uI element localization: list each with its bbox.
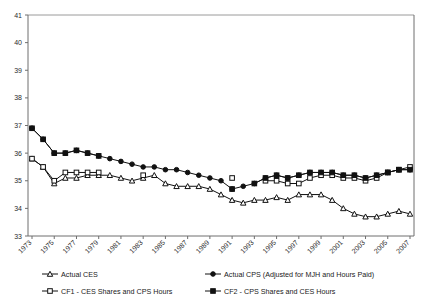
x-tick-label: 2001 — [328, 239, 344, 255]
data-point-marker — [63, 151, 68, 156]
legend-marker-open-triangle-icon — [47, 271, 52, 276]
data-point-marker — [218, 192, 223, 197]
data-point-marker — [230, 187, 235, 192]
data-point-marker — [363, 214, 368, 219]
legend-marker-filled-square-icon — [211, 289, 216, 294]
data-point-marker — [296, 192, 301, 197]
data-point-marker — [285, 181, 290, 186]
data-point-marker — [163, 167, 168, 172]
legend-label: Actual CES — [61, 270, 98, 279]
chart-legend: Actual CESActual CPS (Adjusted for MJH a… — [42, 270, 374, 296]
data-point-marker — [96, 154, 101, 159]
data-point-marker — [319, 170, 324, 175]
data-point-marker — [152, 165, 157, 170]
data-point-marker — [219, 178, 224, 183]
data-point-marker — [118, 175, 123, 180]
x-tick-label: 1987 — [172, 239, 188, 255]
plot-frame — [28, 15, 414, 236]
data-point-marker — [107, 173, 112, 178]
data-point-marker — [330, 170, 335, 175]
data-point-marker — [274, 173, 279, 178]
data-point-marker — [396, 208, 401, 213]
x-tick-label: 1997 — [284, 239, 300, 255]
data-point-marker — [41, 137, 46, 142]
series-line — [32, 159, 410, 217]
data-point-marker — [407, 211, 412, 216]
x-tick-label: 2005 — [373, 239, 389, 255]
y-tick-label: 36 — [14, 150, 22, 157]
data-point-marker — [241, 184, 246, 189]
data-point-marker — [63, 170, 68, 175]
data-point-marker — [63, 175, 68, 180]
x-tick-label: 1973 — [17, 239, 33, 255]
data-point-marker — [141, 173, 146, 178]
data-point-marker — [274, 178, 279, 183]
data-point-marker — [185, 184, 190, 189]
data-point-marker — [329, 197, 334, 202]
x-tick-label: 1989 — [195, 239, 211, 255]
series-2 — [30, 126, 413, 191]
x-tick-label: 1999 — [306, 239, 322, 255]
data-point-marker — [263, 176, 268, 181]
y-tick-label: 34 — [14, 205, 22, 212]
x-tick-label: 1977 — [61, 239, 77, 255]
x-tick-label: 1991 — [217, 239, 233, 255]
data-point-marker — [397, 167, 402, 172]
data-point-marker — [363, 176, 368, 181]
data-point-marker — [85, 170, 90, 175]
data-point-marker — [207, 186, 212, 191]
data-point-marker — [152, 173, 157, 178]
x-tick-label: 1995 — [261, 239, 277, 255]
x-tick-label: 1975 — [39, 239, 55, 255]
data-point-marker — [174, 184, 179, 189]
x-tick-label: 2007 — [395, 239, 411, 255]
data-point-marker — [318, 192, 323, 197]
data-point-marker — [252, 181, 257, 186]
y-tick-label: 41 — [14, 12, 22, 19]
x-tick-label: 1983 — [128, 239, 144, 255]
y-tick-label: 39 — [14, 67, 22, 74]
x-tick-label: 1979 — [83, 239, 99, 255]
series-1 — [29, 156, 412, 219]
data-point-marker — [241, 200, 246, 205]
x-tick-label: 1981 — [106, 239, 122, 255]
data-point-marker — [119, 159, 124, 164]
data-point-marker — [229, 197, 234, 202]
y-tick-label: 35 — [14, 177, 22, 184]
x-axis-ticks: 1973197519771979198119831985198719891991… — [17, 236, 411, 255]
data-point-marker — [52, 151, 57, 156]
data-point-marker — [41, 165, 46, 170]
legend-label: Actual CPS (Adjusted for MJH and Hours P… — [224, 270, 374, 279]
data-point-marker — [307, 192, 312, 197]
y-tick-label: 40 — [14, 39, 22, 46]
series-layer — [29, 126, 412, 219]
data-point-marker — [308, 170, 313, 175]
chart-container: 414039383736353433 197319751977197919811… — [0, 0, 426, 304]
data-point-marker — [230, 176, 235, 181]
legend-item-3[interactable]: CF1 - CES Shares and CPS Hours — [42, 287, 173, 296]
data-point-marker — [96, 170, 101, 175]
data-point-marker — [385, 170, 390, 175]
data-point-marker — [85, 151, 90, 156]
legend-marker-filled-circle-icon — [211, 272, 216, 277]
data-point-marker — [297, 181, 302, 186]
data-point-marker — [341, 173, 346, 178]
y-tick-label: 37 — [14, 122, 22, 129]
data-point-marker — [196, 184, 201, 189]
data-point-marker — [108, 156, 113, 161]
data-point-marker — [30, 156, 35, 161]
x-tick-label: 1985 — [150, 239, 166, 255]
data-point-marker — [130, 162, 135, 167]
legend-label: CF1 - CES Shares and CPS Hours — [61, 287, 173, 296]
legend-item-2[interactable]: Actual CPS (Adjusted for MJH and Hours P… — [205, 270, 374, 279]
data-point-marker — [74, 170, 79, 175]
legend-item-1[interactable]: Actual CES — [42, 270, 98, 279]
y-tick-label: 33 — [14, 233, 22, 240]
legend-item-4[interactable]: CF2 - CPS Shares and CES Hours — [205, 287, 336, 296]
data-point-marker — [352, 211, 357, 216]
data-point-marker — [385, 211, 390, 216]
data-point-marker — [308, 176, 313, 181]
x-tick-label: 2003 — [350, 239, 366, 255]
legend-marker-open-square-icon — [48, 289, 53, 294]
data-point-marker — [352, 173, 357, 178]
